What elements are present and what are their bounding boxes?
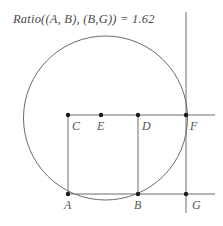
point-label-e: E xyxy=(97,119,104,134)
point-f[interactable] xyxy=(184,113,188,117)
point-label-f: F xyxy=(190,119,197,134)
point-label-b: B xyxy=(134,198,141,213)
points-group xyxy=(66,113,188,196)
point-d[interactable] xyxy=(136,113,140,117)
point-label-a: A xyxy=(64,198,71,213)
point-label-d: D xyxy=(142,119,151,134)
point-b[interactable] xyxy=(136,192,140,196)
segments-group xyxy=(68,12,215,213)
geometry-canvas xyxy=(0,0,223,226)
point-g[interactable] xyxy=(184,192,188,196)
point-c[interactable] xyxy=(66,113,70,117)
circle-shape xyxy=(24,36,188,200)
point-a[interactable] xyxy=(66,192,70,196)
circle-group xyxy=(24,36,188,200)
point-e[interactable] xyxy=(99,113,103,117)
point-label-g: G xyxy=(192,198,201,213)
geometry-figure: Ratio((A, B), (B,G)) = 1.62 ABCDEFG xyxy=(0,0,223,226)
point-label-c: C xyxy=(72,119,80,134)
